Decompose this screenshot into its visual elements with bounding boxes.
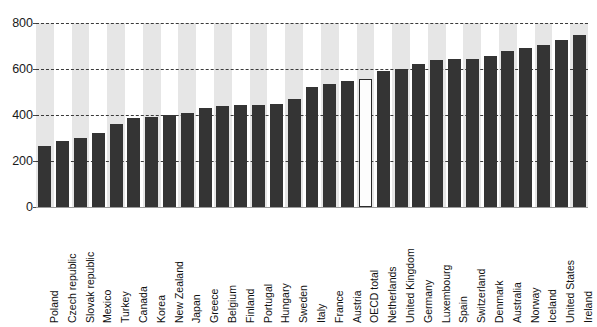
y-axis: 0200400600800 xyxy=(0,0,33,327)
x-tick-label: OECD total xyxy=(369,270,380,323)
x-tick-label: Switzerland xyxy=(476,269,487,323)
plot-area xyxy=(36,23,588,207)
x-tick-label: Turkey xyxy=(120,291,131,323)
x-tick-label: Denmark xyxy=(494,280,505,323)
bar xyxy=(216,106,229,207)
x-tick-label: Japan xyxy=(191,294,202,323)
bar-chart: 0200400600800 PolandCzech republicSlovak… xyxy=(0,0,597,327)
bar xyxy=(288,99,301,207)
bar xyxy=(430,60,443,207)
x-tick-label: Norway xyxy=(530,287,541,323)
axis-baseline xyxy=(36,207,588,208)
bar xyxy=(448,59,461,207)
x-axis-labels: PolandCzech republicSlovak republicMexic… xyxy=(36,210,588,327)
y-tick-label: 600 xyxy=(1,63,33,76)
bar xyxy=(181,113,194,207)
x-tick-label: Spain xyxy=(458,296,469,323)
bar xyxy=(56,141,69,207)
bar xyxy=(359,79,372,207)
bar-series xyxy=(36,23,588,207)
x-tick-label: Iceland xyxy=(547,289,558,323)
x-tick-label: Hungary xyxy=(280,283,291,323)
x-tick-label: Czech republic xyxy=(67,254,78,323)
bar xyxy=(252,105,265,207)
y-tick-label: 200 xyxy=(1,155,33,168)
bar xyxy=(573,35,586,208)
x-tick-label: Australia xyxy=(512,282,523,323)
bar xyxy=(199,108,212,207)
y-tick-label: 800 xyxy=(1,17,33,30)
bar xyxy=(484,56,497,207)
bar xyxy=(519,48,532,207)
x-tick-label: Sweden xyxy=(298,285,309,323)
bar xyxy=(270,104,283,207)
x-tick-label: Ireland xyxy=(583,291,594,323)
y-tick-label: 400 xyxy=(1,109,33,122)
bar xyxy=(92,133,105,207)
x-tick-label: France xyxy=(334,290,345,323)
x-tick-label: Korea xyxy=(156,295,167,323)
bar xyxy=(145,117,158,207)
bar xyxy=(306,87,319,207)
x-tick-label: Poland xyxy=(49,290,60,323)
x-tick-label: United Kingdom xyxy=(405,248,416,323)
x-tick-label: Italy xyxy=(316,304,327,323)
x-tick-label: Mexico xyxy=(102,290,113,323)
bar xyxy=(412,64,425,207)
x-tick-label: Austria xyxy=(352,290,363,323)
bar xyxy=(74,138,87,207)
x-tick-label: Belgium xyxy=(227,285,238,323)
bar xyxy=(234,105,247,207)
x-tick-label: Greece xyxy=(209,289,220,323)
bar xyxy=(466,59,479,207)
bar xyxy=(127,118,140,207)
bar xyxy=(537,45,550,207)
bar xyxy=(341,81,354,207)
bar xyxy=(395,69,408,207)
bar xyxy=(555,40,568,207)
x-tick-label: Portugal xyxy=(263,284,274,323)
x-tick-label: Slovak republic xyxy=(85,252,96,323)
x-tick-label: United States xyxy=(565,260,576,323)
x-tick-label: Germany xyxy=(423,280,434,323)
bar xyxy=(110,124,123,207)
x-tick-label: New Zealand xyxy=(174,261,185,323)
bar xyxy=(38,146,51,207)
bar xyxy=(323,84,336,207)
y-tick-label: 0 xyxy=(1,201,33,214)
bar xyxy=(163,115,176,207)
x-tick-label: Luxembourg xyxy=(441,265,452,323)
bar xyxy=(377,71,390,207)
x-tick-label: Finland xyxy=(245,289,256,323)
x-tick-label: Canada xyxy=(138,286,149,323)
x-tick-label: Netherlands xyxy=(387,266,398,323)
bar xyxy=(501,51,514,207)
